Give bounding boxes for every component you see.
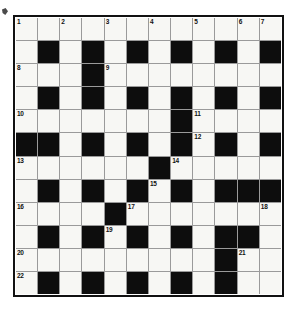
grid-cell-open[interactable] [105,110,126,132]
grid-cell-open[interactable] [193,157,214,179]
grid-cell-open[interactable] [60,41,81,63]
grid-cell-open[interactable] [193,41,214,63]
grid-cell-open[interactable] [105,87,126,109]
grid-cell-open[interactable] [82,203,103,225]
grid-cell-open[interactable] [149,41,170,63]
grid-cell-open[interactable] [193,272,214,294]
grid-cell-open[interactable] [193,180,214,202]
grid-cell-open[interactable] [238,41,259,63]
grid-cell-open[interactable]: 15 [149,180,170,202]
grid-cell-open[interactable] [260,226,281,248]
grid-cell-open[interactable]: 3 [105,18,126,40]
grid-cell-open[interactable]: 17 [127,203,148,225]
grid-cell-open[interactable] [60,133,81,155]
grid-cell-open[interactable] [215,110,236,132]
crossword-puzzle-grid[interactable]: 12345678910111213141516171819202122 [13,15,284,297]
grid-cell-open[interactable] [60,203,81,225]
grid-cell-open[interactable] [193,226,214,248]
grid-cell-open[interactable] [238,272,259,294]
grid-cell-open[interactable]: 22 [16,272,37,294]
grid-cell-open[interactable] [16,87,37,109]
grid-cell-open[interactable] [105,41,126,63]
grid-cell-open[interactable] [60,226,81,248]
grid-cell-open[interactable] [260,249,281,271]
grid-cell-open[interactable] [38,110,59,132]
grid-cell-open[interactable]: 8 [16,64,37,86]
grid-cell-open[interactable] [16,226,37,248]
grid-cell-open[interactable] [60,249,81,271]
grid-cell-open[interactable] [193,87,214,109]
grid-cell-open[interactable]: 1 [16,18,37,40]
grid-cell-open[interactable] [127,18,148,40]
grid-cell-open[interactable]: 14 [171,157,192,179]
grid-cell-open[interactable] [60,110,81,132]
grid-cell-open[interactable] [215,64,236,86]
grid-cell-open[interactable] [82,249,103,271]
grid-cell-open[interactable] [82,157,103,179]
grid-cell-open[interactable] [260,157,281,179]
grid-cell-open[interactable] [82,18,103,40]
grid-cell-open[interactable] [60,180,81,202]
grid-cell-open[interactable] [171,64,192,86]
grid-cell-open[interactable] [149,110,170,132]
grid-cells-container[interactable]: 12345678910111213141516171819202122 [16,18,281,294]
grid-cell-open[interactable] [193,249,214,271]
grid-cell-open[interactable] [260,272,281,294]
grid-cell-open[interactable] [215,18,236,40]
grid-cell-open[interactable] [260,110,281,132]
grid-cell-open[interactable]: 6 [238,18,259,40]
grid-cell-open[interactable]: 4 [149,18,170,40]
grid-cell-open[interactable] [260,64,281,86]
grid-cell-open[interactable] [60,272,81,294]
grid-cell-open[interactable] [149,87,170,109]
grid-cell-open[interactable] [171,203,192,225]
grid-cell-open[interactable] [127,249,148,271]
grid-cell-open[interactable]: 20 [16,249,37,271]
grid-cell-open[interactable] [238,110,259,132]
grid-cell-open[interactable] [38,157,59,179]
grid-cell-open[interactable] [105,180,126,202]
grid-cell-open[interactable]: 13 [16,157,37,179]
grid-cell-open[interactable] [105,133,126,155]
grid-cell-open[interactable]: 19 [105,226,126,248]
grid-cell-open[interactable] [238,203,259,225]
grid-cell-open[interactable] [105,272,126,294]
grid-cell-open[interactable] [215,157,236,179]
grid-cell-open[interactable] [171,249,192,271]
grid-cell-open[interactable] [171,18,192,40]
grid-cell-open[interactable]: 11 [193,110,214,132]
grid-cell-open[interactable] [105,157,126,179]
grid-cell-open[interactable] [193,203,214,225]
grid-cell-open[interactable] [38,249,59,271]
grid-cell-open[interactable] [149,249,170,271]
grid-cell-open[interactable]: 7 [260,18,281,40]
grid-cell-open[interactable] [238,157,259,179]
grid-cell-open[interactable] [149,203,170,225]
grid-cell-open[interactable] [149,133,170,155]
grid-cell-open[interactable] [238,133,259,155]
grid-cell-open[interactable] [127,110,148,132]
grid-cell-open[interactable]: 18 [260,203,281,225]
grid-cell-open[interactable] [149,64,170,86]
grid-cell-open[interactable] [238,87,259,109]
grid-cell-open[interactable] [149,272,170,294]
grid-cell-open[interactable] [193,64,214,86]
grid-cell-open[interactable] [105,249,126,271]
grid-cell-open[interactable] [38,18,59,40]
grid-cell-open[interactable]: 12 [193,133,214,155]
grid-cell-open[interactable] [38,64,59,86]
grid-cell-open[interactable] [16,180,37,202]
grid-cell-open[interactable] [60,64,81,86]
grid-cell-open[interactable] [60,87,81,109]
grid-cell-open[interactable] [38,203,59,225]
grid-cell-open[interactable]: 10 [16,110,37,132]
grid-cell-open[interactable] [215,203,236,225]
grid-cell-open[interactable] [127,157,148,179]
grid-cell-open[interactable] [16,41,37,63]
grid-cell-open[interactable] [127,64,148,86]
grid-cell-open[interactable] [60,157,81,179]
grid-cell-open[interactable] [82,110,103,132]
grid-cell-open[interactable] [238,64,259,86]
grid-cell-open[interactable] [149,226,170,248]
grid-cell-open[interactable]: 16 [16,203,37,225]
